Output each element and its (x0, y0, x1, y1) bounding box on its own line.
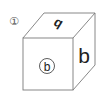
top-face-glyph: b (51, 16, 64, 33)
right-face-glyph: b (78, 44, 90, 67)
cube-diagram: ① b b b (0, 0, 99, 93)
figure-number-label: ① (9, 15, 19, 28)
front-face-glyph: b (44, 60, 51, 74)
